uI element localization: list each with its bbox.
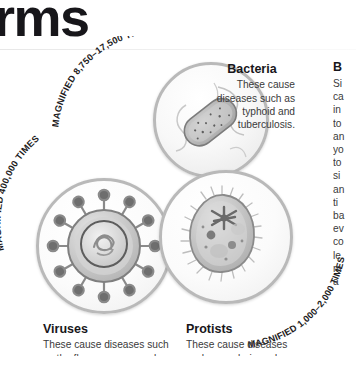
header-divider [0,49,356,50]
bacteria-caption-heading: Bacteria [209,62,295,76]
viruses-magnification-text: MAGNIFIED 400,000 TIMES [0,133,41,252]
right-column-line: an [333,183,356,196]
right-column-line: ti [333,196,356,209]
right-text-column: B Si ca in to an yo to si an ti ba ev co… [333,60,356,288]
right-column-line: to [333,117,356,130]
right-column-line: in [333,103,356,116]
right-column-line: ba [333,209,356,222]
viruses-illustration-circle [36,178,172,314]
right-column-line: Si [333,77,356,90]
protists-caption-body-cut: such as malaria and [186,352,277,356]
protists-illustration-circle [159,170,293,304]
viruses-caption: Viruses These cause diseases such as the… [43,322,193,352]
right-column-heading: B [333,60,356,74]
protists-caption: Protists These cause diseases such as ma… [186,322,306,352]
protists-caption-heading: Protists [186,322,306,336]
bacteria-caption-body: These cause diseases such as typhoid and… [209,78,295,131]
virus-drawing [39,181,169,311]
protists-caption-body: These cause diseases [186,338,306,351]
right-column-line: yo [333,143,356,156]
right-column-line: ca [333,90,356,103]
right-column-line: co [333,235,356,248]
right-column-line: ev [333,222,356,235]
viruses-caption-body-cut: as the flu, mumps, measles, [43,352,170,356]
right-column-line: an [333,130,356,143]
right-column-line: to [333,156,356,169]
page-title: rms [0,0,89,44]
right-column-line: le [333,249,356,262]
viruses-caption-body: These cause diseases such [43,338,193,351]
right-column-line: si [333,169,356,182]
protist-drawing [162,173,290,301]
bacteria-caption: Bacteria These cause diseases such as ty… [209,62,295,131]
right-column-line: a [333,275,356,288]
viruses-caption-heading: Viruses [43,322,193,336]
right-column-line: m [333,262,356,275]
page-canvas: rms [0,0,356,366]
